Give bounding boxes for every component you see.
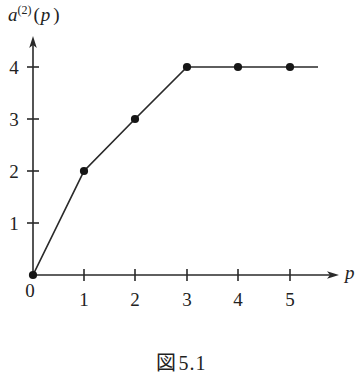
data-point-p4 [234,63,242,71]
data-point-p3 [183,63,191,71]
y-axis-label-superscript: (2) [18,3,32,17]
data-series-line [33,67,318,275]
origin-label: 0 [18,281,42,300]
figure-caption-symbol: 図 [156,351,179,375]
x-tick-label-4: 4 [226,290,250,309]
y-tick-label-1: 1 [2,214,26,233]
y-tick-label-4: 4 [2,58,26,77]
y-tick-label-2: 2 [2,162,26,181]
figure-caption-number: 5.1 [179,352,207,374]
x-axis-label: p [345,263,355,282]
x-tick-label-3: 3 [175,290,199,309]
data-point-p5 [286,63,294,71]
y-axis-label-open-paren: ( [34,4,40,25]
x-tick-label-1: 1 [72,290,96,309]
data-point-markers [29,63,294,279]
data-point-p1 [80,167,88,175]
figure-caption: 図5.1 [0,347,362,376]
x-tick-label-5: 5 [278,290,302,309]
y-axis-label-argument: p [41,4,51,25]
data-point-p2 [131,115,139,123]
y-axis-label-close-paren: ) [53,4,59,25]
data-point-p0 [29,271,37,279]
y-axis-label-base: a [8,4,18,25]
y-axis-label: a(2)(p) [8,4,60,24]
x-tick-label-2: 2 [123,290,147,309]
y-tick-label-3: 3 [2,110,26,129]
